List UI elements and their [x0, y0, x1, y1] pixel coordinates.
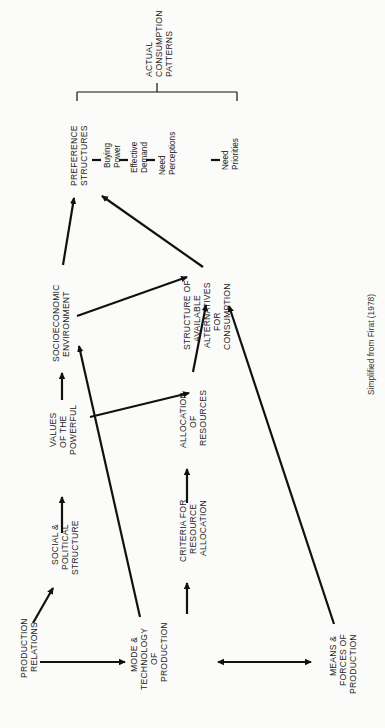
chain-need-perceptions: Need Perceptions — [158, 132, 177, 175]
svg-text:OF: OF — [149, 653, 159, 665]
svg-text:CRITERIA FOR: CRITERIA FOR — [178, 499, 188, 562]
svg-text:CONSUMPTION: CONSUMPTION — [154, 10, 164, 77]
node-preference-structures: PREFERENCE STRUCTURES — [69, 125, 89, 186]
svg-text:OF THE: OF THE — [58, 415, 68, 448]
edge-means-to-structure — [229, 306, 334, 624]
svg-text:RELATIONS: RELATIONS — [29, 622, 39, 672]
edge-production-to-social — [33, 588, 53, 623]
svg-text:ALLOCATION: ALLOCATION — [178, 392, 188, 448]
node-actual-consumption-patterns: ACTUAL CONSUMPTION PATTERNS — [144, 10, 174, 77]
node-allocation-of-resources: ALLOCATION OF RESOURCES — [178, 390, 208, 448]
node-production-relations: PRODUCTION RELATIONS — [19, 618, 39, 678]
svg-text:MEANS &: MEANS & — [328, 636, 338, 676]
node-mode-technology-of-production: MODE & TECHNOLOGY OF PRODUCTION — [129, 622, 169, 690]
svg-text:PATTERNS: PATTERNS — [164, 31, 174, 77]
svg-text:PRODUCTION: PRODUCTION — [348, 634, 358, 694]
svg-text:POWERFUL: POWERFUL — [68, 405, 78, 455]
svg-text:ENVIRONMENT: ENVIRONMENT — [61, 291, 71, 357]
svg-text:CONSUMPTION: CONSUMPTION — [222, 283, 232, 350]
node-social-political-structure: SOCIAL & POLITICAL STRUCTURE — [50, 520, 80, 575]
svg-text:FORCES OF: FORCES OF — [338, 634, 348, 686]
svg-text:STRUCTURE OF: STRUCTURE OF — [182, 280, 192, 350]
svg-text:Need: Need — [158, 155, 167, 175]
edge-socio-to-preference — [63, 198, 74, 265]
svg-text:MODE &: MODE & — [129, 637, 139, 672]
chain-need-priorities: Need Priorities — [221, 138, 240, 170]
chain-effective-demand: Effective Demand — [130, 141, 149, 173]
preference-chain: Buying Power Effective Demand Need Perce… — [92, 132, 240, 175]
svg-text:Effective: Effective — [130, 141, 139, 173]
svg-text:PRODUCTION: PRODUCTION — [19, 618, 29, 678]
svg-text:Power: Power — [113, 145, 122, 168]
node-structure-of-available-alternatives: STRUCTURE OF AVAILABLE ALTERNATIVES FOR … — [182, 280, 232, 350]
node-values-of-powerful: VALUES OF THE POWERFUL — [48, 405, 78, 455]
svg-text:PREFERENCE: PREFERENCE — [69, 125, 79, 186]
svg-text:Priorities: Priorities — [231, 138, 240, 170]
consumption-bracket — [77, 83, 237, 101]
diagram-canvas: PRODUCTION RELATIONS SOCIAL & POLITICAL … — [0, 0, 385, 728]
svg-text:VALUES: VALUES — [48, 412, 58, 447]
svg-text:STRUCTURES: STRUCTURES — [79, 125, 89, 186]
svg-text:Need: Need — [221, 150, 230, 170]
svg-text:STRUCTURE: STRUCTURE — [70, 520, 80, 575]
svg-text:OF: OF — [188, 416, 198, 428]
svg-text:RESOURCE: RESOURCE — [188, 504, 198, 554]
svg-text:Simplified from Firat (1978): Simplified from Firat (1978) — [366, 294, 376, 395]
edge-structure-to-preference — [102, 196, 203, 267]
svg-text:Demand: Demand — [140, 142, 149, 173]
node-socioeconomic-environment: SOCIOECONOMIC ENVIRONMENT — [51, 284, 71, 362]
node-means-forces-of-production: MEANS & FORCES OF PRODUCTION — [328, 634, 358, 694]
svg-text:TECHNOLOGY: TECHNOLOGY — [139, 628, 149, 690]
svg-text:Buying: Buying — [103, 143, 112, 168]
svg-text:Perceptions: Perceptions — [168, 132, 177, 175]
edge-socio-to-structure — [77, 277, 187, 316]
node-criteria-resource-allocation: CRITERIA FOR RESOURCE ALLOCATION — [178, 499, 208, 562]
chain-buying-power: Buying Power — [103, 143, 122, 168]
svg-text:SOCIOECONOMIC: SOCIOECONOMIC — [51, 284, 61, 362]
edge-mode-to-socio — [79, 346, 140, 617]
svg-text:PRODUCTION: PRODUCTION — [159, 622, 169, 682]
svg-text:RESOURCES: RESOURCES — [198, 390, 208, 446]
caption: Simplified from Firat (1978) — [366, 294, 376, 395]
svg-text:ALLOCATION: ALLOCATION — [198, 500, 208, 556]
edge-values-to-allocation — [90, 393, 189, 417]
svg-text:SOCIAL &: SOCIAL & — [50, 524, 60, 565]
svg-text:ACTUAL: ACTUAL — [144, 42, 154, 77]
svg-text:FOR: FOR — [212, 312, 222, 331]
